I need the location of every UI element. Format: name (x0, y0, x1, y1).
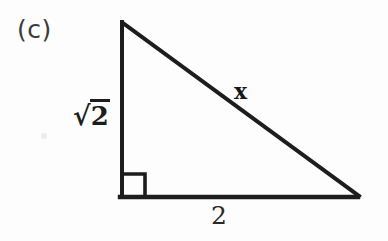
right-angle-marker-icon (122, 174, 145, 197)
radicand-value: 2 (91, 102, 109, 129)
radical-overbar-icon (90, 99, 110, 102)
horizontal-leg-label: 2 (211, 203, 227, 228)
figure-container: (c) √2 x 2 (0, 0, 388, 241)
scan-artifact-speck (41, 133, 47, 139)
triangle-diagram (0, 0, 388, 241)
hypotenuse-line (123, 23, 359, 196)
part-label: (c) (17, 17, 52, 42)
hypotenuse-label: x (234, 80, 247, 102)
vertical-leg-label: √2 (73, 102, 109, 129)
radical-sign-icon: √ (73, 102, 91, 129)
radicand-text: 2 (91, 101, 109, 131)
